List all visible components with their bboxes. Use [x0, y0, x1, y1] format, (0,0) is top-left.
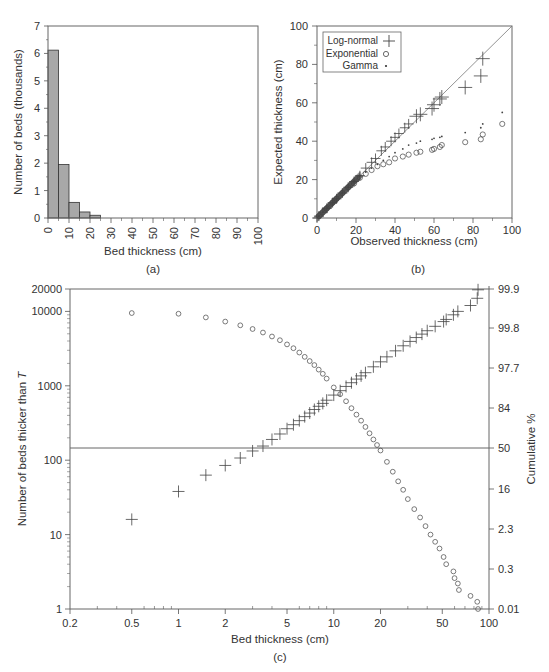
circle-marker: [270, 334, 275, 339]
circle-marker: [176, 311, 181, 316]
x-tick-label: 100: [480, 617, 498, 629]
y-tick-label: 10: [50, 529, 62, 541]
circle-marker: [297, 350, 302, 355]
dot-marker: [394, 152, 396, 154]
x-axis-title-a: Bed thickness (cm): [104, 245, 202, 257]
legend-box: Log-normal Exponential Gamma: [323, 32, 401, 72]
y-tick-label: 1000: [38, 380, 62, 392]
dot-marker: [501, 112, 503, 114]
circle-marker: [500, 121, 505, 126]
dot-marker: [464, 132, 466, 134]
circle-marker: [250, 327, 255, 332]
y-tick-label: 20000: [31, 283, 62, 295]
y-axis-title-c: Number of beds thicker than T: [16, 371, 28, 527]
circle-marker: [392, 156, 397, 161]
dot-marker: [439, 136, 441, 138]
dot-marker: [416, 142, 418, 144]
y2-axis-ticks-c: 0.010.32.316508497.799.899.9: [489, 283, 519, 615]
circle-marker: [307, 359, 312, 364]
y-tick-label: 1: [34, 185, 40, 197]
circle-marker: [441, 555, 446, 560]
circle-marker: [468, 593, 473, 598]
panel-label-c: (c): [273, 651, 287, 663]
circle-marker: [316, 367, 321, 372]
histogram-bar: [59, 165, 70, 218]
histogram-bar: [48, 50, 59, 218]
x-axis-ticks-b: 020406080100: [314, 218, 521, 236]
y2-tick-label: 16: [498, 483, 510, 495]
qq-panel-b: 020406080100 020406080100 Log-normal Exp…: [272, 20, 521, 275]
x-tick-label: 60: [168, 227, 180, 239]
y-tick-label: 20: [296, 174, 308, 186]
x-tick-label: 80: [210, 227, 222, 239]
legend-gamma: Gamma: [342, 60, 378, 71]
histogram-bars: [48, 50, 101, 218]
dot-marker: [359, 175, 361, 177]
circle-marker: [278, 338, 283, 343]
dot-marker: [480, 127, 482, 129]
dot-marker: [353, 181, 355, 183]
x-tick-label: 20: [84, 227, 96, 239]
dot-marker: [482, 123, 484, 125]
y2-tick-label: 0.01: [498, 603, 519, 615]
y-axis-title-c-var: T: [16, 371, 28, 379]
circle-marker: [320, 371, 325, 376]
circle-marker: [444, 562, 449, 567]
circle-marker: [455, 581, 460, 586]
y-tick-label: 0: [34, 212, 40, 224]
circle-marker: [423, 524, 428, 529]
circle-marker: [285, 342, 290, 347]
circle-marker: [428, 532, 433, 537]
dot-marker: [431, 138, 433, 140]
dot-marker: [322, 211, 324, 213]
circle-marker: [344, 399, 349, 404]
histogram-panel-a: 01234567 0102030405060708090100 Bed thic…: [12, 20, 264, 275]
dot-marker: [318, 215, 320, 217]
circle-marker: [452, 576, 457, 581]
circle-marker: [457, 588, 462, 593]
dot-marker: [388, 156, 390, 158]
dot-marker: [326, 208, 328, 210]
panel-label-a: (a): [146, 263, 160, 275]
circle-marker: [203, 315, 208, 320]
dot-marker: [365, 171, 367, 173]
circle-marker: [385, 459, 390, 464]
x-tick-label: 5: [284, 617, 290, 629]
dot-marker: [332, 202, 334, 204]
circle-marker: [324, 376, 329, 381]
y2-tick-label: 84: [498, 402, 510, 414]
circle-marker: [367, 431, 372, 436]
y2-tick-label: 97.7: [498, 362, 519, 374]
dot-marker: [402, 148, 404, 150]
x-axis-ticks-a: 0102030405060708090100: [42, 218, 264, 245]
qq-points: [313, 52, 505, 222]
y2-tick-label: 50: [498, 442, 510, 454]
x-tick-label: 10: [328, 617, 340, 629]
x-tick-label: 20: [374, 617, 386, 629]
x-tick-label: 50: [147, 227, 159, 239]
circle-marker: [312, 363, 317, 368]
y-tick-label: 10000: [31, 305, 62, 317]
x-tick-label: 30: [105, 227, 117, 239]
y-tick-label: 2: [34, 157, 40, 169]
y-axis-title-b: Expected thickness (cm): [272, 59, 284, 184]
x-tick-label: 1: [175, 617, 181, 629]
x-tick-label: 0: [42, 227, 54, 233]
circle-marker: [354, 412, 359, 417]
x-tick-label: 100: [503, 224, 521, 236]
circle-marker: [349, 406, 354, 411]
dot-marker: [341, 192, 343, 194]
histogram-bar: [80, 212, 91, 218]
circle-marker: [238, 323, 243, 328]
legend-exponential: Exponential: [326, 48, 378, 59]
dot-marker: [371, 167, 373, 169]
histogram-bar: [69, 202, 80, 218]
circle-marker: [475, 599, 480, 604]
circle-marker: [381, 162, 386, 167]
circle-marker: [400, 154, 405, 159]
circle-marker: [406, 152, 411, 157]
y-tick-label: 0: [302, 212, 308, 224]
circle-marker: [431, 146, 436, 151]
circle-marker: [363, 425, 368, 430]
y-axis-ticks-a: 01234567: [34, 20, 48, 224]
